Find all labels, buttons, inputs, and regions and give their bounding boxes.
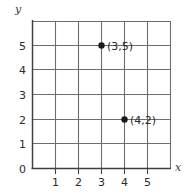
data-point-marker-3-5	[98, 42, 104, 48]
x-tick-label-4: 4	[121, 176, 128, 189]
x-tick-label-2: 2	[75, 176, 82, 189]
x-tick-label-1: 1	[52, 176, 59, 189]
x-axis-tick-labels: 1 2 3 4 5	[52, 176, 151, 189]
data-point-label-4-2: (4,2)	[130, 114, 156, 127]
y-tick-label-3: 3	[19, 89, 26, 102]
y-tick-label-0: 0	[19, 163, 26, 176]
y-axis-label: y	[14, 3, 22, 16]
x-axis-label: x	[175, 161, 182, 174]
y-tick-label-5: 5	[19, 40, 26, 53]
data-point-label-3-5: (3,5)	[107, 40, 133, 53]
y-tick-label-4: 4	[19, 64, 26, 77]
y-tick-label-1: 1	[19, 138, 26, 151]
x-tick-label-5: 5	[144, 176, 151, 189]
y-tick-label-2: 2	[19, 114, 26, 127]
coordinate-grid-svg: 5 4 3 2 1 0 1 2 3 4 5 y x (3,5) (4,2)	[0, 0, 187, 194]
y-axis-tick-labels: 5 4 3 2 1 0	[19, 40, 26, 176]
data-point-marker-4-2	[121, 116, 127, 122]
x-axis-tick-marks	[56, 169, 148, 174]
x-tick-label-3: 3	[98, 176, 105, 189]
coordinate-plane-figure: 5 4 3 2 1 0 1 2 3 4 5 y x (3,5) (4,2)	[0, 0, 187, 194]
